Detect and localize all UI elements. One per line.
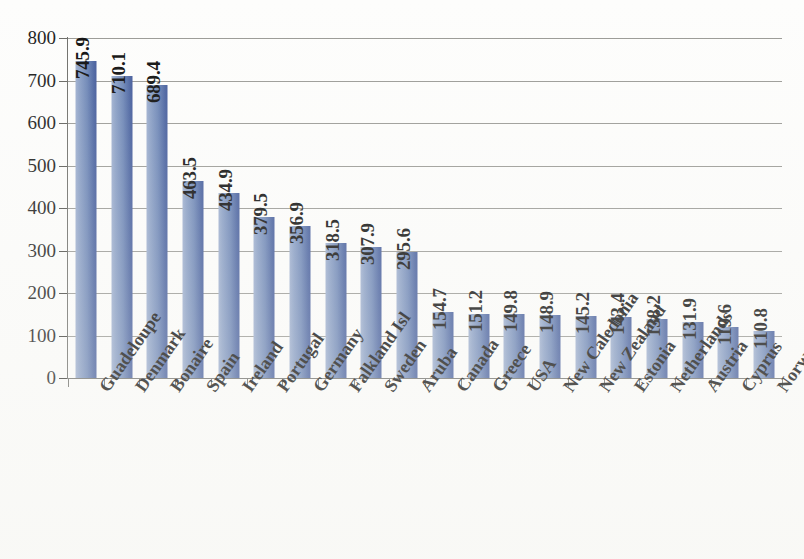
x-axis-category-label: Spain (202, 384, 219, 396)
x-axis-category-label: Ireland (238, 384, 255, 396)
bar-value-label: 318.5 (322, 219, 344, 261)
bar-value-label: 434.9 (215, 169, 237, 211)
x-axis-category-label: Netherlands (666, 384, 683, 396)
y-axis-tick-label: 800 (28, 27, 57, 49)
x-axis-category-label: Portugal (273, 384, 290, 396)
x-axis-category-label: Aruba (416, 384, 433, 396)
x-axis-category-label: Falkland Isl (345, 384, 362, 396)
x-axis-category-labels: GuadeloupeDenmarkBonaireSpainIrelandPort… (68, 384, 804, 559)
bar-value-label: 295.6 (393, 229, 415, 271)
y-axis-tick (59, 293, 67, 294)
y-axis-tick (59, 251, 67, 252)
y-axis-tick-label: 200 (28, 282, 57, 304)
x-axis-category-label: Denmark (131, 384, 148, 396)
y-axis-tick (59, 208, 67, 209)
bar-value-label: 463.5 (179, 157, 201, 199)
y-axis-tick (59, 336, 67, 337)
y-axis-tick-label: 400 (28, 197, 57, 219)
x-axis-category-label: Greece (488, 384, 505, 396)
y-axis-tick-label: 0 (47, 367, 57, 389)
bar-value-label: 745.9 (72, 37, 94, 79)
bar-value-label: 710.1 (108, 52, 130, 94)
x-axis-category-label: Germany (309, 384, 326, 396)
bar-value-label: 307.9 (357, 223, 379, 265)
bar-chart: 8007006005004003002001000 745.9710.1689.… (0, 0, 804, 559)
bar-value-label: 379.5 (250, 193, 272, 235)
y-axis-tick-label: 500 (28, 155, 57, 177)
y-axis-tick (59, 38, 67, 39)
bar-value-label: 145.2 (572, 293, 594, 335)
x-axis-category-label: Cyprus (737, 384, 754, 396)
x-axis-category-label: USA (523, 384, 540, 396)
x-axis-category-label: Austria (702, 384, 719, 396)
x-axis-category-label: New Caledonia (559, 384, 576, 396)
bar-value-label: 149.8 (500, 291, 522, 333)
y-axis-tick (59, 166, 67, 167)
y-axis-tick-label: 100 (28, 325, 57, 347)
bar-value-label: 154.7 (429, 288, 451, 330)
y-axis-tick (59, 81, 67, 82)
x-axis-category-label: Guadeloupe (95, 384, 112, 396)
y-axis-labels: 8007006005004003002001000 (0, 0, 58, 559)
y-axis-tick-label: 600 (28, 112, 57, 134)
y-axis-tick-label: 700 (28, 70, 57, 92)
x-axis-category-label: Bonaire (166, 384, 183, 396)
x-axis-category-label: Norway (773, 384, 790, 396)
bar-value-label: 131.9 (679, 298, 701, 340)
x-axis-category-label: Canada (452, 384, 469, 396)
x-axis-category-label: Estonia (630, 384, 647, 396)
x-axis-category-label: Sweden (380, 384, 397, 396)
bar-value-label: 689.4 (143, 61, 165, 103)
y-axis-tick (59, 378, 67, 379)
bar-value-label: 356.9 (286, 203, 308, 245)
y-axis-tick-label: 300 (28, 240, 57, 262)
y-axis-tick (59, 123, 67, 124)
bar-value-label: 151.2 (465, 290, 487, 332)
x-axis-category-label: New Zealand (595, 384, 612, 396)
bar-value-label: 148.9 (536, 291, 558, 333)
